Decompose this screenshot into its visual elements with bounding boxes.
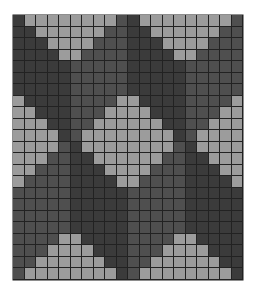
dark-cell [151,50,163,62]
dark-cell [163,61,175,73]
light-cell [25,165,37,177]
medium-cell [163,199,175,211]
light-cell [197,142,209,154]
dark-cell [197,176,209,188]
dark-cell [186,222,198,234]
light-cell [220,107,232,119]
light-cell [82,257,94,269]
medium-cell [25,188,37,200]
medium-cell [232,15,244,27]
medium-cell [197,73,209,85]
dark-cell [186,199,198,211]
medium-cell [13,222,25,234]
light-cell [209,142,221,154]
light-cell [140,142,152,154]
dark-cell [117,245,129,257]
dark-cell [232,188,244,200]
medium-cell [59,165,71,177]
light-cell [13,119,25,131]
medium-cell [105,84,117,96]
light-cell [209,15,221,27]
light-cell [36,142,48,154]
light-cell [13,165,25,177]
dark-cell [140,73,152,85]
light-cell [105,142,117,154]
dark-cell [232,211,244,223]
light-cell [128,119,140,131]
medium-cell [71,84,83,96]
medium-cell [174,176,186,188]
medium-cell [94,84,106,96]
light-cell [140,165,152,177]
dark-cell [220,199,232,211]
light-cell [82,27,94,39]
light-cell [25,153,37,165]
dark-cell [140,38,152,50]
medium-cell [220,73,232,85]
dark-cell [174,130,186,142]
medium-cell [59,142,71,154]
light-cell [197,27,209,39]
medium-cell [151,176,163,188]
dark-cell [128,84,140,96]
dark-cell [186,188,198,200]
dark-cell [25,38,37,50]
light-cell [59,27,71,39]
medium-cell [128,268,140,280]
dark-cell [232,199,244,211]
light-cell [197,130,209,142]
dark-cell [48,119,60,131]
light-cell [82,268,94,280]
medium-cell [36,199,48,211]
light-cell [105,153,117,165]
medium-cell [151,245,163,257]
medium-cell [105,61,117,73]
light-cell [174,245,186,257]
medium-cell [186,61,198,73]
medium-cell [220,61,232,73]
dark-cell [220,257,232,269]
dark-cell [209,222,221,234]
light-cell [220,119,232,131]
medium-cell [13,234,25,246]
medium-cell [209,38,221,50]
dark-cell [25,96,37,108]
medium-cell [151,234,163,246]
light-cell [59,234,71,246]
medium-cell [209,96,221,108]
light-cell [128,96,140,108]
medium-cell [140,234,152,246]
dark-cell [36,96,48,108]
dark-cell [197,153,209,165]
light-cell [71,38,83,50]
dark-cell [82,176,94,188]
light-cell [174,234,186,246]
light-cell [71,234,83,246]
light-cell [186,234,198,246]
medium-cell [59,188,71,200]
light-cell [232,165,244,177]
dark-cell [82,211,94,223]
medium-cell [48,165,60,177]
medium-cell [140,199,152,211]
medium-cell [48,153,60,165]
light-cell [140,130,152,142]
dark-cell [13,73,25,85]
dark-cell [151,38,163,50]
medium-cell [220,38,232,50]
dark-cell [71,222,83,234]
light-cell [105,107,117,119]
light-cell [220,268,232,280]
light-cell [128,176,140,188]
light-cell [36,257,48,269]
dark-cell [209,188,221,200]
light-cell [163,245,175,257]
dark-cell [71,153,83,165]
medium-cell [94,96,106,108]
dark-cell [117,268,129,280]
dark-cell [197,199,209,211]
light-cell [186,50,198,62]
dark-cell [48,50,60,62]
dark-cell [36,50,48,62]
light-cell [220,15,232,27]
